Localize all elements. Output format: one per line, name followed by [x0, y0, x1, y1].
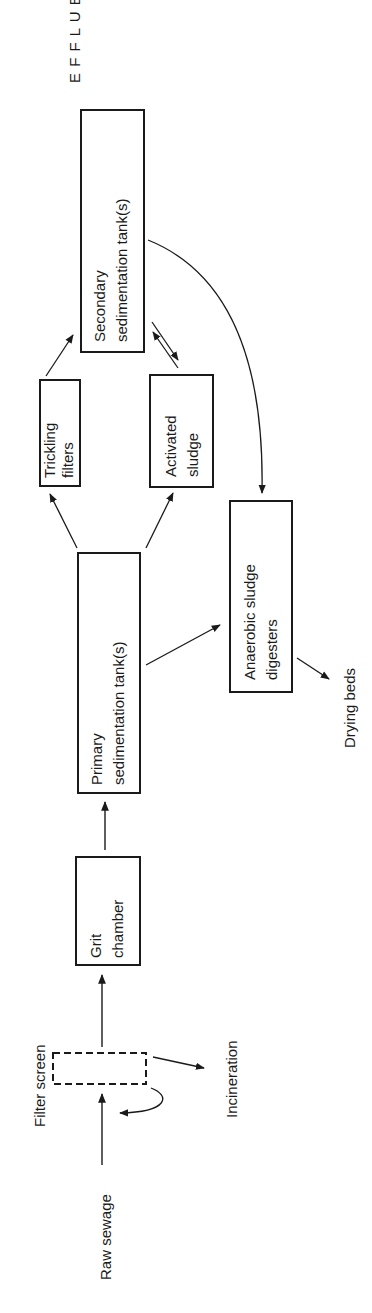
sewage-treatment-diagram: Raw sewage Filter screen Incineration Gr… [0, 0, 372, 1313]
svg-text:Filter screen: Filter screen [31, 1044, 48, 1127]
filter-screen-box [53, 1053, 146, 1084]
activated-sludge-box [150, 375, 213, 487]
svg-text:Drying beds: Drying beds [341, 668, 358, 748]
arrow-primary-to-activated [146, 493, 173, 548]
arrow-anaerobic-to-drying [297, 658, 329, 679]
anaerobic-label-1: Anaerobic sludge [241, 564, 258, 680]
activated-label-1: Activated [162, 415, 179, 477]
svg-text:Incineration: Incineration [223, 1040, 240, 1118]
grit-chamber-label-1: Grit [87, 933, 104, 958]
arrow-screen-return [120, 1088, 163, 1113]
incineration-label: Incineration [223, 1040, 240, 1118]
arrow-screen-to-incineration [153, 1057, 204, 1068]
filter-screen-label: Filter screen [31, 1044, 48, 1127]
trickling-label-1: Trickling [41, 423, 58, 478]
trickling-label-2: filters [59, 442, 76, 478]
raw-sewage-label: Raw sewage [97, 1194, 114, 1280]
arrow-activated-to-secondary [153, 332, 178, 368]
grit-chamber-box [76, 857, 140, 965]
arrow-trickling-to-secondary [46, 335, 73, 376]
primary-label-1: Primary [88, 733, 105, 785]
activated-label-2: sludge [184, 433, 201, 477]
secondary-label-1: Secondary [91, 270, 108, 342]
secondary-label-2: sedimentation tank(s) [113, 199, 130, 342]
svg-text:Raw sewage: Raw sewage [97, 1194, 114, 1280]
grit-chamber-label-2: chamber [109, 900, 126, 958]
arrow-secondary-to-activated [152, 322, 178, 360]
drying-beds-label: Drying beds [341, 668, 358, 748]
svg-text:E F F L U E N T: E F F L U E N T [66, 0, 83, 83]
effluent-label: E F F L U E N T [66, 0, 83, 83]
arrow-primary-to-anaerobic [146, 625, 220, 665]
arrow-primary-to-trickling [50, 494, 77, 548]
anaerobic-digesters-box [230, 501, 292, 692]
anaerobic-label-2: digesters [263, 619, 280, 680]
primary-label-2: sedimentation tank(s) [110, 642, 127, 785]
